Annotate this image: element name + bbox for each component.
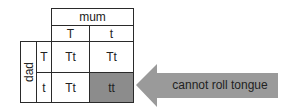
- left-arrow-icon: [0, 0, 291, 111]
- annotation-label: cannot roll tongue: [162, 76, 278, 94]
